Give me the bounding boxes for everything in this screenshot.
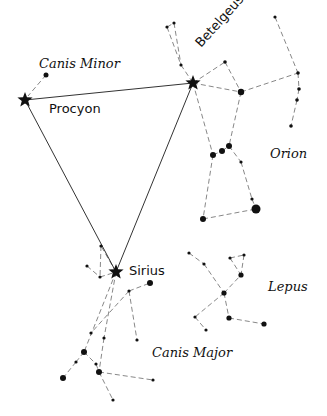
constellation-line bbox=[241, 162, 252, 199]
star-dot bbox=[74, 360, 77, 363]
star-dot bbox=[289, 124, 293, 128]
constellation-line bbox=[225, 62, 241, 92]
star-dot bbox=[44, 73, 49, 78]
constellation-line bbox=[193, 83, 241, 92]
constellation-line bbox=[99, 338, 104, 372]
star-dot bbox=[226, 315, 231, 320]
label-orion: Orion bbox=[270, 146, 307, 161]
star-dot bbox=[221, 290, 226, 295]
constellation-line bbox=[241, 73, 298, 92]
star-dot bbox=[210, 152, 216, 158]
constellation-line bbox=[84, 272, 116, 352]
star-dot bbox=[147, 280, 153, 286]
star-dot bbox=[204, 328, 207, 331]
star-dot bbox=[94, 362, 97, 365]
star-dot bbox=[273, 15, 276, 18]
star-icon bbox=[185, 75, 200, 89]
constellation-line bbox=[291, 100, 297, 126]
constellation-line bbox=[104, 272, 116, 338]
constellation-line bbox=[230, 255, 244, 258]
constellation-line bbox=[229, 92, 241, 146]
star-icon bbox=[108, 264, 123, 278]
star-dot bbox=[228, 256, 231, 259]
constellation-line bbox=[230, 258, 241, 275]
star-dot bbox=[127, 289, 130, 292]
constellation-line bbox=[167, 27, 181, 65]
constellation-line bbox=[224, 293, 229, 318]
constellation-line bbox=[298, 73, 299, 89]
star-dot bbox=[99, 244, 102, 247]
star-dot bbox=[60, 375, 66, 381]
star-dot bbox=[250, 197, 253, 200]
star-dot bbox=[200, 216, 206, 222]
star-dot bbox=[219, 148, 225, 154]
constellation-line bbox=[193, 83, 213, 155]
label-canis-major: Canis Major bbox=[152, 345, 232, 360]
star-dot bbox=[242, 253, 245, 256]
star-dot bbox=[89, 331, 92, 334]
constellation-line bbox=[100, 246, 101, 277]
label-procyon: Procyon bbox=[49, 101, 101, 116]
star-icon bbox=[17, 92, 32, 106]
constellation-line bbox=[241, 255, 244, 275]
constellation-line bbox=[87, 266, 100, 277]
constellation-line bbox=[229, 318, 264, 324]
star-dot bbox=[111, 398, 114, 401]
star-dot bbox=[297, 87, 301, 91]
star-dot bbox=[261, 321, 266, 326]
star-dot bbox=[296, 71, 300, 75]
constellation-line bbox=[275, 17, 298, 73]
constellation-line bbox=[189, 253, 204, 264]
constellation-line bbox=[203, 209, 256, 219]
star-dot bbox=[252, 205, 261, 214]
constellation-line bbox=[129, 283, 150, 291]
constellation-line bbox=[195, 317, 206, 330]
constellation-line bbox=[63, 362, 76, 378]
constellation-line bbox=[28, 75, 46, 96]
star-dot bbox=[172, 21, 175, 24]
constellation-line bbox=[174, 23, 181, 65]
constellation-line bbox=[99, 372, 153, 380]
label-canis-minor: Canis Minor bbox=[39, 56, 120, 71]
label-lepus: Lepus bbox=[268, 279, 308, 294]
star-chart: Canis Minor Procyon Betelgeuse Orion Sir… bbox=[0, 0, 327, 416]
constellation-line bbox=[204, 264, 224, 293]
constellation-line bbox=[203, 155, 213, 219]
constellation-line bbox=[91, 291, 129, 333]
constellation-line bbox=[129, 291, 137, 340]
star-dot bbox=[81, 349, 87, 355]
star-dot bbox=[202, 262, 205, 265]
star-dot bbox=[165, 25, 168, 28]
star-dot bbox=[238, 272, 243, 277]
star-dot bbox=[85, 264, 88, 267]
star-dot bbox=[135, 338, 138, 341]
constellation-line bbox=[195, 293, 224, 317]
star-dot bbox=[226, 143, 232, 149]
star-dot bbox=[187, 251, 190, 254]
star-dot bbox=[193, 315, 196, 318]
star-dot bbox=[96, 369, 102, 375]
star-dot bbox=[102, 336, 105, 339]
star-dot bbox=[223, 60, 227, 64]
constellation-line bbox=[193, 62, 225, 83]
star-dot bbox=[295, 98, 299, 102]
star-dot bbox=[151, 378, 154, 381]
star-dot bbox=[239, 160, 242, 163]
star-dot bbox=[98, 275, 101, 278]
constellation-line bbox=[99, 372, 113, 400]
star-dot bbox=[238, 89, 244, 95]
star-dot bbox=[179, 63, 182, 66]
bright-stars bbox=[17, 75, 200, 278]
label-sirius: Sirius bbox=[129, 263, 165, 278]
constellation-line bbox=[224, 275, 241, 293]
